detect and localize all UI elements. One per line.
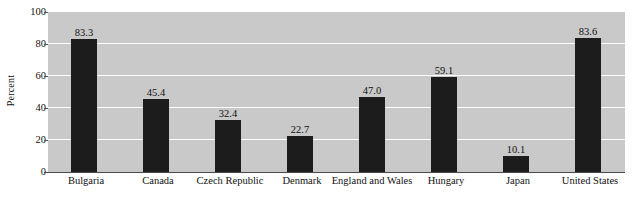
plot-area: 83.3 45.4 32.4 22.7 47.0 59.1 10.1 83.6 [48, 12, 625, 172]
y-tick-label-60: 60 [20, 71, 46, 81]
bar-czech-republic: 32.4 [215, 120, 241, 172]
y-tick-label-80: 80 [20, 39, 46, 49]
gridline-40 [48, 107, 625, 108]
bar-canada: 45.4 [143, 99, 169, 172]
bar-value-japan: 10.1 [507, 144, 525, 155]
bar-japan: 10.1 [503, 156, 529, 172]
bar-value-united-states: 83.6 [579, 26, 597, 37]
y-axis-tick-labels: 100 80 60 40 20 0 [20, 12, 46, 172]
bar-value-england-and-wales: 47.0 [363, 85, 381, 96]
bar-value-bulgaria: 83.3 [75, 27, 93, 38]
bar-value-denmark: 22.7 [291, 124, 309, 135]
bar-value-czech-republic: 32.4 [219, 108, 237, 119]
bar-england-and-wales: 47.0 [359, 97, 385, 172]
bar-hungary: 59.1 [431, 77, 457, 172]
y-tick-label-20: 20 [20, 135, 46, 145]
bar-united-states: 83.6 [575, 38, 601, 172]
bar-bulgaria: 83.3 [71, 39, 97, 172]
bar-value-canada: 45.4 [147, 87, 165, 98]
y-axis-title-text: Percent [6, 74, 17, 105]
y-tick-label-100: 100 [20, 7, 46, 17]
gridline-20 [48, 139, 625, 140]
x-label-united-states: United States [542, 175, 637, 188]
bar-denmark: 22.7 [287, 136, 313, 172]
gridline-80 [48, 43, 625, 44]
y-axis-title: Percent [0, 0, 22, 180]
bar-value-hungary: 59.1 [435, 65, 453, 76]
gridline-60 [48, 75, 625, 76]
y-tick-label-40: 40 [20, 103, 46, 113]
x-axis-line [44, 172, 625, 173]
bar-chart: Percent 100 80 60 40 20 0 83.3 45.4 32.4… [0, 0, 637, 209]
x-axis-category-labels: Bulgaria Canada Czech Republic Denmark E… [48, 175, 625, 209]
